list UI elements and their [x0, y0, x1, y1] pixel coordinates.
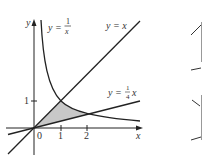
label-identity: y = x [105, 20, 127, 31]
origin-label: 0 [37, 130, 42, 141]
svg-text:y =: y = [47, 22, 62, 33]
svg-text:x: x [64, 27, 69, 36]
svg-text:x: x [131, 87, 137, 98]
curve-y-equals-quarter-x [8, 101, 140, 135]
svg-text:4: 4 [126, 93, 130, 101]
clipped-adjacent-figure [191, 22, 202, 140]
svg-text:y =: y = [107, 87, 122, 98]
graph: y x 0 1 2 1 y = 1 x y = x y = 1 4 x [0, 0, 202, 161]
x-axis-label: x [135, 130, 141, 141]
svg-text:1: 1 [66, 17, 70, 26]
svg-text:1: 1 [126, 84, 130, 92]
label-inverse-x: y = 1 x [47, 17, 71, 36]
x-tick-label-1: 1 [58, 130, 63, 141]
x-tick-label-2: 2 [84, 130, 89, 141]
y-axis-arrow-icon [32, 19, 37, 26]
y-tick-label-1: 1 [24, 95, 29, 106]
label-quarter-x: y = 1 4 x [107, 84, 137, 101]
y-axis-label: y [25, 17, 31, 28]
shaded-region [34, 101, 87, 128]
